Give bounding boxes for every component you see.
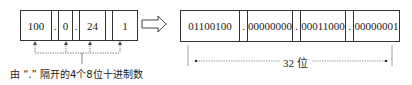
binary-address-box: 01100100 . 00000000 . 00011000 . 0000000…	[180, 10, 400, 42]
binary-separator: .	[293, 11, 301, 41]
binary-octet-3: 00011000	[301, 11, 346, 41]
binary-separator: .	[346, 11, 354, 41]
binary-separator: .	[240, 11, 248, 41]
binary-octet-1: 01100100	[181, 11, 240, 41]
convert-arrow-icon	[142, 16, 166, 32]
binary-octet-4: 00000001	[354, 11, 399, 41]
bit-width-label: 32 位	[283, 54, 308, 70]
binary-octet-2: 00000000	[248, 11, 293, 41]
decimal-caption: 由 “.” 隔开的4个8位十进制数	[10, 66, 143, 81]
